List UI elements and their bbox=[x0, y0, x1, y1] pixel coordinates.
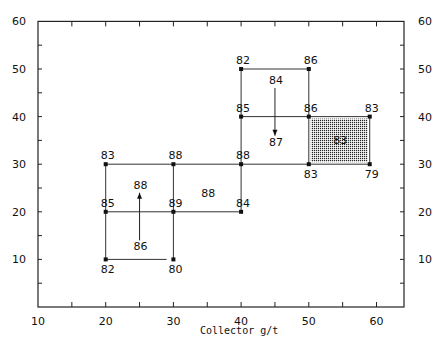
data-point bbox=[239, 162, 243, 166]
y-tick-label-right: 10 bbox=[418, 253, 432, 266]
connector-lines bbox=[106, 69, 370, 259]
data-point bbox=[171, 162, 175, 166]
data-point bbox=[239, 115, 243, 119]
x-tick-label: 30 bbox=[166, 315, 180, 328]
data-point bbox=[104, 210, 108, 214]
y-tick-label-right: 20 bbox=[418, 206, 432, 219]
point-value-label: 80 bbox=[168, 263, 182, 276]
y-tick-label-right: 60 bbox=[418, 15, 432, 28]
data-point bbox=[368, 162, 372, 166]
point-value-label: 82 bbox=[101, 263, 115, 276]
y-tick-label-right: 50 bbox=[418, 63, 432, 76]
point-value-label: 82 bbox=[236, 54, 250, 67]
cell-value-label: 88 bbox=[201, 187, 215, 200]
data-point bbox=[307, 115, 311, 119]
x-axis-label: Collector g/t bbox=[200, 325, 278, 336]
y-tick-label-right: 40 bbox=[418, 111, 432, 124]
cell-value-label: 87 bbox=[269, 136, 283, 149]
cell-value-label: 84 bbox=[269, 74, 283, 87]
point-value-label: 85 bbox=[236, 102, 250, 115]
data-point bbox=[104, 162, 108, 166]
data-point bbox=[239, 210, 243, 214]
y-tick-label-right: 30 bbox=[418, 158, 432, 171]
arrow-head-icon bbox=[137, 193, 142, 199]
x-tick-label: 60 bbox=[370, 315, 384, 328]
y-tick-label-left: 30 bbox=[12, 158, 26, 171]
point-value-label: 86 bbox=[304, 102, 318, 115]
y-tick-label-left: 20 bbox=[12, 206, 26, 219]
x-tick-label: 50 bbox=[302, 315, 316, 328]
point-value-label: 79 bbox=[365, 168, 379, 181]
point-value-label: 88 bbox=[168, 149, 182, 162]
point-value-label: 86 bbox=[304, 54, 318, 67]
x-tick-label: 10 bbox=[31, 315, 45, 328]
y-tick-label-left: 50 bbox=[12, 63, 26, 76]
data-point bbox=[171, 257, 175, 261]
point-value-label: 84 bbox=[236, 197, 250, 210]
point-value-label: 83 bbox=[304, 168, 318, 181]
data-point bbox=[171, 210, 175, 214]
cell-value-label: 88 bbox=[134, 179, 148, 192]
data-point bbox=[239, 67, 243, 71]
point-value-label: 83 bbox=[101, 149, 115, 162]
chart: 102030405060101020203030404050506060 828… bbox=[0, 0, 440, 350]
cell-value-label: 83 bbox=[333, 134, 347, 147]
y-tick-label-left: 10 bbox=[12, 253, 26, 266]
data-point bbox=[307, 67, 311, 71]
y-tick-label-left: 40 bbox=[12, 111, 26, 124]
x-tick-label: 20 bbox=[99, 315, 113, 328]
y-tick-label-left: 60 bbox=[12, 15, 26, 28]
point-value-label: 89 bbox=[168, 197, 182, 210]
cell-value-label: 86 bbox=[134, 240, 148, 253]
data-point bbox=[307, 162, 311, 166]
data-point bbox=[368, 115, 372, 119]
data-point bbox=[104, 257, 108, 261]
point-value-label: 83 bbox=[365, 102, 379, 115]
point-value-label: 88 bbox=[236, 149, 250, 162]
point-value-label: 85 bbox=[101, 197, 115, 210]
